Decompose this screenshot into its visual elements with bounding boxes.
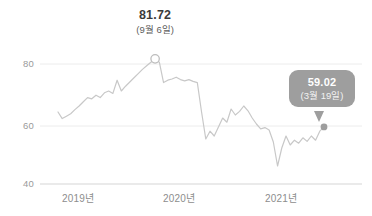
- end-marker-icon: [321, 124, 328, 131]
- tooltip-date: (3월 19일): [291, 89, 353, 102]
- data-line: [58, 59, 324, 166]
- peak-marker-icon: [151, 55, 159, 63]
- x-tick-2021: 2021년: [265, 190, 297, 205]
- x-tick-2020: 2020년: [163, 190, 195, 205]
- y-tick-80: 80: [12, 58, 34, 69]
- tooltip-pointer-icon: [314, 111, 324, 122]
- y-tick-40: 40: [12, 178, 34, 189]
- x-tick-2019: 2019년: [62, 190, 94, 205]
- line-chart: 80 60 40 2019년 2020년 2021년 81.72 (9월 6일)…: [0, 0, 372, 216]
- value-tooltip[interactable]: 59.02 (3월 19일): [289, 70, 355, 107]
- chart-plot-area: [0, 0, 372, 216]
- y-tick-60: 60: [12, 120, 34, 131]
- tooltip-value: 59.02: [291, 75, 353, 89]
